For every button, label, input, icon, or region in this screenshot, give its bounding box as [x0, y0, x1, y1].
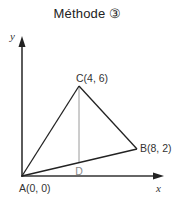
point-c-label: C(4, 6) [76, 72, 108, 84]
segment-ac [22, 86, 79, 176]
x-axis-arrow-icon [153, 173, 164, 180]
y-axis-arrow-icon [19, 36, 26, 47]
coordinate-diagram: y x C(4, 6) B(8, 2) A(0, 0) D [0, 0, 175, 205]
point-b-label: B(8, 2) [140, 142, 172, 154]
y-axis-label: y [9, 30, 15, 42]
x-axis-label: x [155, 182, 161, 194]
point-a-label: A(0, 0) [19, 182, 51, 194]
segment-cb [79, 86, 137, 149]
point-d-label: D [75, 165, 83, 177]
